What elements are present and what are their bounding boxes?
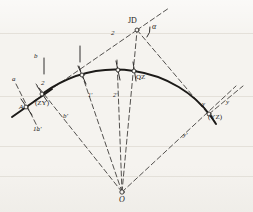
node-marker-ZY bbox=[40, 92, 44, 96]
label-b-prime: b′ bbox=[63, 113, 68, 120]
curve-setting-out-diagram: JD α 2 2 b a A (ZY) 1a′ b′ 1′ 2′ QZ y y … bbox=[0, 0, 253, 212]
label-1-prime: 1′ bbox=[88, 92, 92, 98]
label-ZY: (ZY) bbox=[35, 100, 49, 107]
label-tangent-a: a bbox=[12, 76, 16, 83]
label-axis-y: y bbox=[226, 99, 229, 106]
label-point-y: y bbox=[202, 101, 205, 108]
angle-arc-alpha bbox=[147, 27, 150, 37]
radius-O-to-QZ-JD bbox=[122, 31, 137, 192]
label-node-2-top: 2 bbox=[111, 30, 115, 37]
label-O: O bbox=[119, 196, 125, 204]
label-YZ: (YZ) bbox=[208, 114, 222, 121]
node-marker-O bbox=[120, 190, 124, 194]
node-marker-A bbox=[24, 105, 28, 109]
node-marker-JD bbox=[135, 28, 139, 32]
radius-O-to-YZ bbox=[122, 86, 236, 192]
label-node-2-left: 2 bbox=[41, 80, 45, 87]
label-QZ: QZ bbox=[136, 74, 145, 81]
label-2-prime: 2′ bbox=[113, 92, 117, 98]
label-alpha: α bbox=[152, 23, 156, 31]
radius-O-to-node1 bbox=[79, 66, 122, 192]
label-JD: JD bbox=[128, 17, 137, 25]
circular-curve-arc bbox=[42, 70, 210, 115]
label-y-prime: y′ bbox=[183, 132, 188, 139]
label-point-A: A bbox=[19, 104, 23, 111]
label-tangent-b: b bbox=[34, 53, 38, 60]
node-marker-2 bbox=[116, 68, 120, 72]
node-marker-1 bbox=[80, 73, 84, 77]
label-1a-prime: 1a′ bbox=[33, 126, 42, 133]
